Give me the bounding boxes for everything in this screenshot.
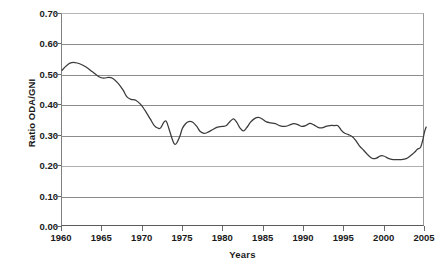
y-axis-tick-mark <box>55 165 61 166</box>
y-axis-tick-mark <box>55 13 61 14</box>
y-axis-tick-label: 0.20 <box>24 160 58 171</box>
y-axis-tick-label: 0.10 <box>24 190 58 201</box>
x-axis-title: Years <box>61 249 424 260</box>
y-axis-tick-label: 0.50 <box>24 68 58 79</box>
x-axis-tick-label: 2005 <box>394 232 447 243</box>
y-axis-tick-label: 0.00 <box>24 221 58 232</box>
y-axis-tick-mark <box>55 135 61 136</box>
y-axis-tick-label: 0.30 <box>24 129 58 140</box>
chart-figure: Ratio ODA/GNI 0.700.600.500.400.300.200.… <box>0 0 447 269</box>
y-axis-tick-mark <box>55 226 61 227</box>
x-axis-tick-mark <box>101 226 102 231</box>
plot-area <box>61 13 424 226</box>
x-axis-tick-mark <box>343 226 344 231</box>
x-axis-tick-mark <box>263 226 264 231</box>
series-path-ratio-oda-gni <box>62 62 426 159</box>
x-axis-tick-mark <box>222 226 223 231</box>
data-series-line <box>62 14 423 225</box>
x-axis-tick-mark <box>61 226 62 231</box>
y-axis-tick-labels: 0.700.600.500.400.300.200.100.00 <box>24 13 58 226</box>
y-axis-tick-mark <box>55 196 61 197</box>
x-axis-tick-mark <box>424 226 425 231</box>
y-axis-tick-label: 0.60 <box>24 38 58 49</box>
x-axis-tick-mark <box>303 226 304 231</box>
y-axis-tick-label: 0.40 <box>24 99 58 110</box>
y-axis-tick-mark <box>55 43 61 44</box>
x-axis-tick-mark <box>384 226 385 231</box>
y-axis-tick-mark <box>55 74 61 75</box>
y-axis-tick-label: 0.70 <box>24 8 58 19</box>
x-axis-tick-mark <box>182 226 183 231</box>
x-axis-tick-mark <box>142 226 143 231</box>
y-axis-tick-mark <box>55 104 61 105</box>
